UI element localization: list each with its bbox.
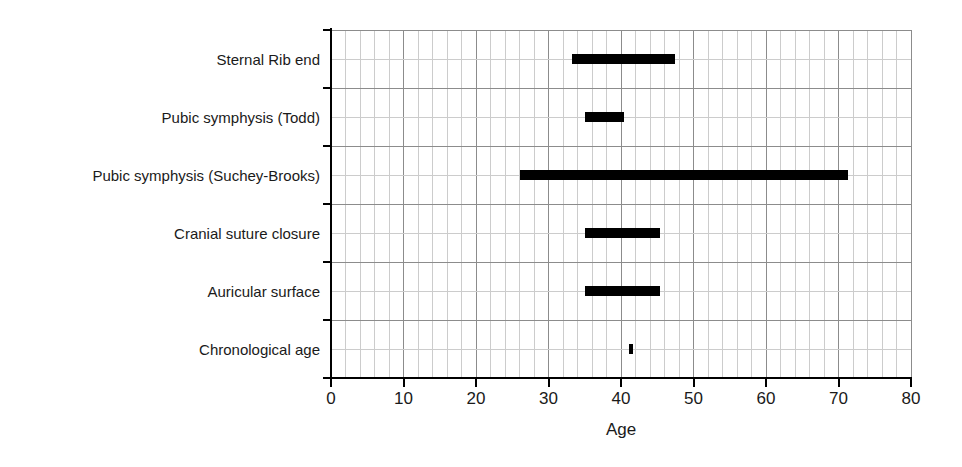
y-axis-tick xyxy=(323,203,332,205)
y-axis-label-4: Auricular surface xyxy=(0,284,320,299)
x-axis-tick-label-8: 80 xyxy=(881,389,941,409)
x-axis-tick xyxy=(548,379,550,387)
y-axis-tick xyxy=(323,261,332,263)
y-axis-tick xyxy=(323,145,332,147)
age-estimation-range-chart: Sternal Rib endPubic symphysis (Todd)Pub… xyxy=(0,0,962,467)
range-bars xyxy=(331,30,911,378)
range-bar xyxy=(585,228,660,238)
x-axis-tick-label-6: 60 xyxy=(736,389,796,409)
y-axis-tick xyxy=(323,29,332,31)
plot-area xyxy=(331,30,911,378)
range-bar xyxy=(585,112,624,122)
y-axis-label-1: Pubic symphysis (Todd) xyxy=(0,110,320,125)
y-axis-label-5: Chronological age xyxy=(0,342,320,357)
x-axis-tick xyxy=(693,379,695,387)
x-axis-tick-label-1: 10 xyxy=(374,389,434,409)
x-axis-tick xyxy=(765,379,767,387)
x-axis-tick xyxy=(475,379,477,387)
y-axis-label-0: Sternal Rib end xyxy=(0,52,320,67)
y-axis-tick xyxy=(323,319,332,321)
range-bar xyxy=(585,286,660,296)
x-axis-tick xyxy=(403,379,405,387)
x-axis-tick xyxy=(838,379,840,387)
y-axis-label-3: Cranial suture closure xyxy=(0,226,320,241)
y-axis-category-labels: Sternal Rib endPubic symphysis (Todd)Pub… xyxy=(0,30,320,378)
x-axis-tick-label-2: 20 xyxy=(446,389,506,409)
x-axis-tick xyxy=(330,379,332,387)
x-axis-tick xyxy=(620,379,622,387)
x-axis-tick-label-5: 50 xyxy=(664,389,724,409)
x-axis-tick xyxy=(910,379,912,387)
x-axis-tick-label-0: 0 xyxy=(301,389,361,409)
y-axis-label-2: Pubic symphysis (Suchey-Brooks) xyxy=(0,168,320,183)
range-bar xyxy=(520,170,848,180)
x-axis-tick-label-4: 40 xyxy=(591,389,651,409)
x-axis-title: Age xyxy=(331,420,911,440)
range-bar xyxy=(629,344,633,354)
x-axis-tick-label-7: 70 xyxy=(809,389,869,409)
range-bar xyxy=(572,54,675,64)
y-axis-tick xyxy=(323,87,332,89)
x-axis-tick-label-3: 30 xyxy=(519,389,579,409)
